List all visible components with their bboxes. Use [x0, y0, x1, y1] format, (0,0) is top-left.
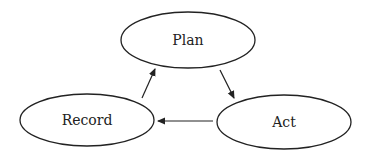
node-plan: Plan — [121, 12, 255, 68]
node-plan-label: Plan — [172, 32, 203, 48]
node-record-label: Record — [62, 112, 113, 128]
node-record: Record — [20, 94, 154, 146]
edge-record-to-plan — [142, 69, 155, 98]
node-act: Act — [217, 95, 351, 149]
cycle-diagram: Plan Act Record — [0, 0, 369, 154]
node-act-label: Act — [271, 114, 296, 130]
edge-plan-to-act — [220, 70, 234, 98]
